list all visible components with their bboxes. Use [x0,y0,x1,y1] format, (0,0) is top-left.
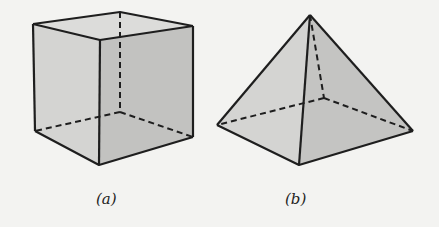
caption-a: (a) [96,190,117,208]
caption-b: (b) [285,190,306,208]
figure: (a) (b) [0,0,439,227]
polyhedra-diagram [0,0,439,227]
cube [33,12,193,165]
pyramid [217,15,413,165]
